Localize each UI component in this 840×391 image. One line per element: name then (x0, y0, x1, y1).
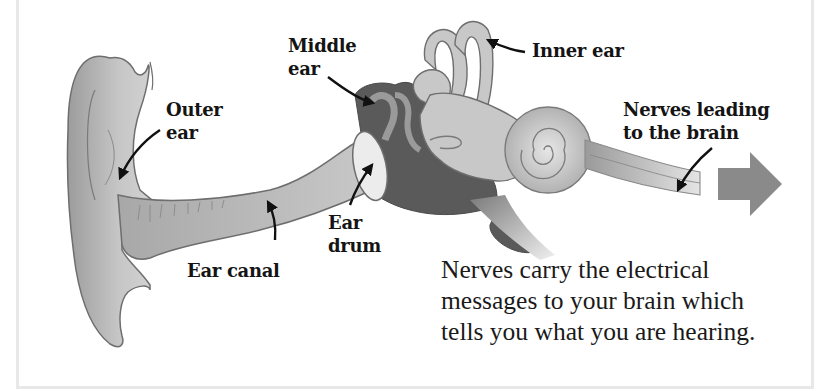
caption-text: Nerves carry the electrical messages to … (441, 254, 755, 347)
cochlea-shape (505, 107, 591, 193)
label-ear-canal: Ear canal (187, 259, 280, 282)
label-outer-ear: Outer ear (166, 98, 223, 144)
label-inner-ear: Inner ear (532, 39, 624, 62)
direction-arrow-icon (718, 152, 782, 216)
label-ear-drum: Ear drum (328, 211, 381, 257)
eustachian-tube-shape (470, 195, 555, 260)
nerve-bundle-shape (585, 140, 700, 195)
label-nerves: Nerves leading to the brain (623, 98, 770, 144)
label-middle-ear: Middle ear (288, 34, 356, 80)
inner-ear-pointer-icon (488, 40, 525, 52)
